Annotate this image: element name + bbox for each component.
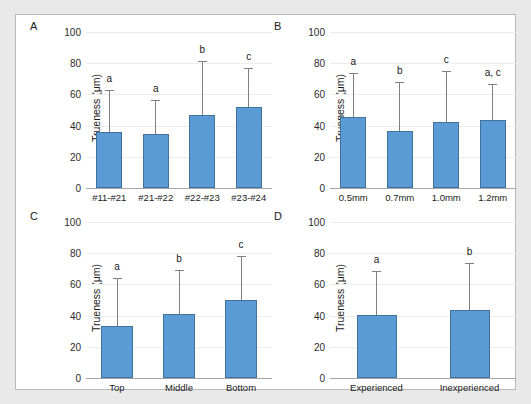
panel-b: BTrueness (μm)020406080100a0.5mmb0.7mmc1… [266, 18, 509, 204]
error-bar-line [399, 82, 400, 131]
y-tick-label: 60 [314, 89, 325, 100]
significance-label: a [350, 56, 356, 67]
x-tick-label: #21-#22 [138, 192, 173, 203]
error-bar-line [446, 71, 447, 122]
x-tick-label: 1.2mm [478, 192, 507, 203]
significance-label: b [176, 253, 182, 264]
x-axis-line [86, 378, 272, 379]
bar[interactable] [143, 134, 169, 188]
figure-root: ATrueness (μm)020406080100a#11-#21a#21-#… [0, 0, 531, 404]
bar[interactable] [450, 310, 490, 378]
x-axis-line [86, 188, 272, 189]
plot-area-c: Trueness (μm)020406080100aTopbMiddlecBot… [86, 222, 272, 378]
y-tick-label: 20 [314, 151, 325, 162]
panel-d: DTrueness (μm)020406080100aExperiencedbI… [266, 208, 509, 394]
x-tick-label: 1.0mm [432, 192, 461, 203]
y-tick-label: 100 [64, 27, 81, 38]
bar-group: c1.0mm [423, 32, 470, 188]
error-bar-line [469, 263, 470, 311]
panel-letter-a: A [30, 20, 38, 32]
x-axis-line [330, 188, 516, 189]
y-tick-label: 20 [314, 341, 325, 352]
y-tick-label: 40 [314, 120, 325, 131]
bar[interactable] [480, 120, 506, 188]
error-bar-cap [151, 100, 160, 101]
significance-label: b [397, 65, 403, 76]
significance-label: c [239, 239, 244, 250]
x-axis-line [330, 378, 516, 379]
error-bar-line [179, 270, 180, 314]
error-bar-cap [244, 68, 253, 69]
bar-group: bInexperienced [423, 222, 516, 378]
y-tick-label: 80 [70, 248, 81, 259]
bar-group: b0.7mm [377, 32, 424, 188]
panel-letter-b: B [274, 20, 282, 32]
y-tick-label: 0 [75, 183, 81, 194]
x-tick-label: 0.5mm [339, 192, 368, 203]
error-bar-cap [395, 82, 404, 83]
error-bar-line [353, 73, 354, 117]
x-tick-label: Middle [165, 382, 193, 393]
bar[interactable] [189, 115, 215, 188]
error-bar-line [376, 271, 377, 315]
error-bar-cap [113, 278, 122, 279]
y-tick-label: 60 [70, 279, 81, 290]
plot-area-d: Trueness (μm)020406080100aExperiencedbIn… [330, 222, 516, 378]
x-tick-label: #11-#21 [92, 192, 126, 203]
y-tick-label: 60 [70, 89, 81, 100]
bar-group: aTop [86, 222, 148, 378]
bar-group: cBottom [210, 222, 272, 378]
x-tick-label: Experienced [350, 382, 403, 393]
y-tick-label: 40 [314, 310, 325, 321]
y-tick-label: 40 [70, 120, 81, 131]
panel-letter-c: C [30, 210, 38, 222]
x-tick-label: Inexperienced [440, 382, 500, 393]
bar[interactable] [433, 122, 459, 188]
bar[interactable] [163, 314, 195, 378]
bar-group: a0.5mm [330, 32, 377, 188]
bar-group: b#22-#23 [179, 32, 226, 188]
significance-label: c [246, 51, 251, 62]
y-tick-label: 100 [308, 217, 325, 228]
bar[interactable] [236, 107, 262, 188]
plot-area-b: Trueness (μm)020406080100a0.5mmb0.7mmc1.… [330, 32, 516, 188]
error-bar-cap [175, 270, 184, 271]
y-tick-label: 0 [319, 183, 325, 194]
y-tick-label: 80 [314, 58, 325, 69]
bar[interactable] [96, 132, 122, 188]
error-bar-cap [237, 256, 246, 257]
significance-label: b [467, 246, 473, 257]
y-tick-label: 0 [319, 373, 325, 384]
bar-group: aExperienced [330, 222, 423, 378]
x-tick-label: 0.7mm [385, 192, 414, 203]
significance-label: a [374, 254, 380, 265]
error-bar-cap [465, 263, 474, 264]
x-tick-label: #22-#23 [185, 192, 220, 203]
error-bar-cap [442, 71, 451, 72]
x-tick-label: Top [109, 382, 124, 393]
panel-letter-d: D [274, 210, 282, 222]
y-tick-label: 60 [314, 279, 325, 290]
bar[interactable] [357, 315, 397, 378]
panel-c: CTrueness (μm)020406080100aTopbMiddlecBo… [22, 208, 265, 394]
y-tick-label: 100 [308, 27, 325, 38]
error-bar-cap [198, 61, 207, 62]
bar-group: bMiddle [148, 222, 210, 378]
bar[interactable] [225, 300, 257, 378]
y-tick-label: 0 [75, 373, 81, 384]
error-bar-line [109, 90, 110, 132]
error-bar-cap [105, 90, 114, 91]
y-tick-label: 40 [70, 310, 81, 321]
bar[interactable] [387, 131, 413, 188]
bar[interactable] [340, 117, 366, 188]
y-tick-label: 20 [70, 151, 81, 162]
error-bar-cap [372, 271, 381, 272]
error-bar-cap [349, 73, 358, 74]
x-tick-label: Bottom [226, 382, 256, 393]
panel-a: ATrueness (μm)020406080100a#11-#21a#21-#… [22, 18, 265, 204]
plot-area-a: Trueness (μm)020406080100a#11-#21a#21-#2… [86, 32, 272, 188]
error-bar-line [492, 84, 493, 120]
bar[interactable] [101, 326, 133, 378]
significance-label: a [153, 83, 159, 94]
significance-label: a, c [485, 67, 501, 78]
